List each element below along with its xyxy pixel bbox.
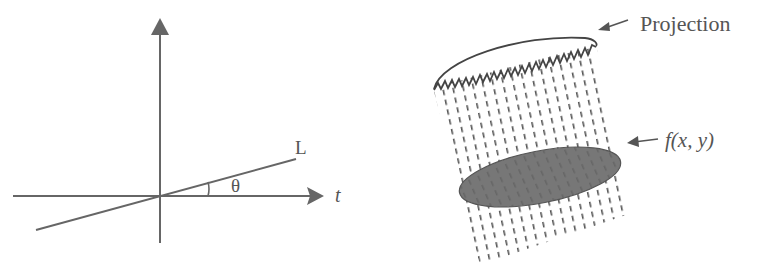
t-axis-label: t xyxy=(335,184,341,206)
line-l-label: L xyxy=(295,137,307,158)
projection-diagram: Projection f(x, y) xyxy=(433,11,730,265)
projection-arrow-icon xyxy=(598,22,610,31)
angle-theta-label: θ xyxy=(231,175,240,196)
projection-label: Projection xyxy=(640,11,730,36)
coordinate-system-diagram: L θ t xyxy=(13,18,341,243)
vertical-axis-arrow-icon xyxy=(151,18,169,35)
object-arrow-icon xyxy=(627,136,639,147)
line-l xyxy=(36,159,296,230)
object-function-label: f(x, y) xyxy=(665,128,714,152)
angle-arc xyxy=(208,182,209,196)
